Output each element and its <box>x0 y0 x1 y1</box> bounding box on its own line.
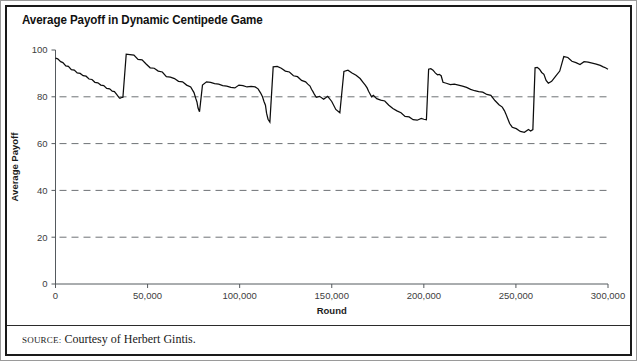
average-payoff-line-chart: 020406080100 050,000100,000150,000200,00… <box>0 36 637 319</box>
source-divider <box>7 325 630 326</box>
y-tick-label-40: 40 <box>37 185 48 196</box>
y-tick-label-60: 60 <box>37 138 48 149</box>
x-tick-label-100000: 100,000 <box>222 290 256 301</box>
y-axis-title: Average Payoff <box>9 132 20 202</box>
gridline-group <box>60 97 609 237</box>
y-tick-label-100: 100 <box>32 44 48 55</box>
y-axis-tick-group: 020406080100 <box>32 44 56 289</box>
source-text: Courtesy of Herbert Gintis. <box>64 332 195 346</box>
source-keyword: SOURCE: <box>22 335 61 345</box>
x-tick-label-250000: 250,000 <box>499 290 533 301</box>
x-tick-label-300000: 300,000 <box>591 290 625 301</box>
x-tick-label-150000: 150,000 <box>315 290 349 301</box>
figure-container: Average Payoff in Dynamic Centipede Game… <box>0 0 637 361</box>
x-tick-label-0: 0 <box>53 290 58 301</box>
x-axis-tick-group: 050,000100,000150,000200,000250,000300,0… <box>53 284 625 301</box>
data-series-line <box>56 54 609 132</box>
chart-plot-area: 020406080100 050,000100,000150,000200,00… <box>0 36 637 319</box>
y-tick-label-80: 80 <box>37 91 48 102</box>
x-axis-title: Round <box>317 305 347 316</box>
y-tick-label-0: 0 <box>42 278 47 289</box>
x-tick-label-200000: 200,000 <box>407 290 441 301</box>
y-tick-label-20: 20 <box>37 232 48 243</box>
x-tick-label-50000: 50,000 <box>133 290 162 301</box>
source-note: SOURCE: Courtesy of Herbert Gintis. <box>22 332 196 347</box>
figure-title: Average Payoff in Dynamic Centipede Game <box>22 13 263 27</box>
